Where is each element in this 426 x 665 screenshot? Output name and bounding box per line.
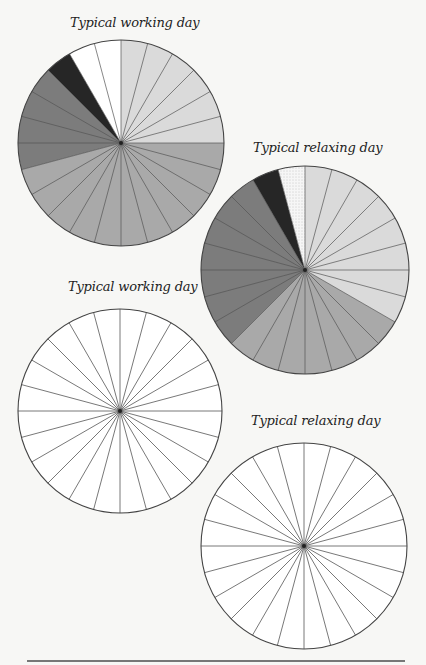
pie-chart-working-day-blank: [16, 307, 224, 515]
chart-title-relaxing-day-blank: Typical relaxing day: [251, 413, 380, 428]
pie-chart-relaxing-day-blank: [199, 441, 409, 651]
pie-chart-relaxing-day-filled: [199, 164, 411, 376]
chart-title-working-day-blank: Typical working day: [68, 279, 197, 294]
pie-chart-working-day-filled: [16, 38, 226, 248]
bottom-divider: [27, 660, 405, 662]
chart-title-relaxing-day-filled: Typical relaxing day: [253, 140, 382, 155]
chart-title-working-day-filled: Typical working day: [70, 15, 199, 30]
